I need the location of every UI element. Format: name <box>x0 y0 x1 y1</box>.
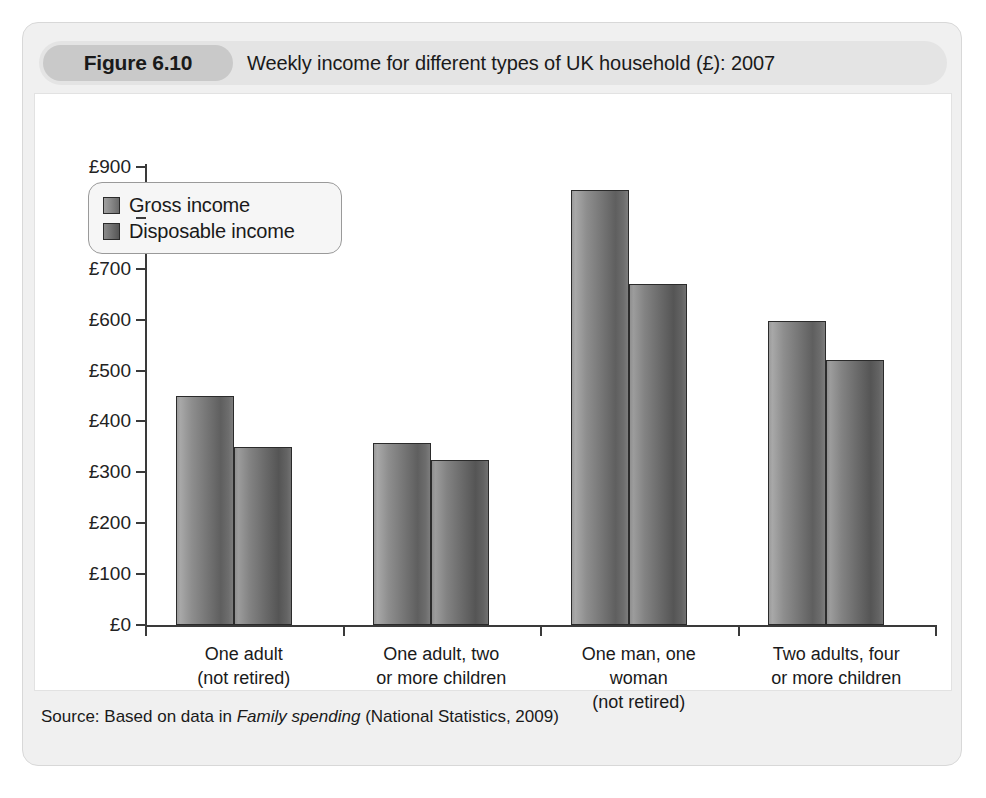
y-axis-tick-label: £300 <box>53 461 131 483</box>
y-axis-tick-label: £600 <box>53 309 131 331</box>
y-axis-tick-label: £700 <box>53 258 131 280</box>
bar-gross-group-4 <box>768 321 826 625</box>
x-axis-category-label: One man, one woman (not retired) <box>540 642 738 714</box>
y-axis-tick-mark <box>136 573 146 575</box>
y-axis-tick-mark <box>136 522 146 524</box>
bar-disposable-group-2 <box>431 460 489 625</box>
bar-disposable-group-1 <box>234 447 292 625</box>
y-axis-tick-mark <box>136 319 146 321</box>
y-axis-tick-label: £100 <box>53 563 131 585</box>
x-axis-tick-mark <box>343 625 345 636</box>
x-axis-category-label: One adult, two or more children <box>343 642 541 690</box>
source-suffix: (National Statistics, 2009) <box>360 707 558 726</box>
chart-legend: Gross income Disposable income <box>88 182 342 254</box>
x-axis-category-label: One adult (not retired) <box>145 642 343 690</box>
x-axis-tick-mark <box>540 625 542 636</box>
figure-card: Figure 6.10 Weekly income for different … <box>22 22 962 766</box>
y-axis-tick-label: £400 <box>53 410 131 432</box>
legend-item-gross-income: Gross income <box>103 192 341 218</box>
y-axis-tick-label: £900 <box>53 156 131 178</box>
bar-disposable-group-4 <box>826 360 884 625</box>
chart-plot-panel: £0£100£200£300£400£500£600£700£800£900 O… <box>34 93 952 691</box>
y-axis-tick-mark <box>136 624 146 626</box>
y-axis-tick-mark <box>136 420 146 422</box>
figure-source: Source: Based on data in Family spending… <box>41 707 559 727</box>
bar-gross-group-1 <box>176 396 234 625</box>
chart-canvas: £0£100£200£300£400£500£600£700£800£900 O… <box>35 94 951 690</box>
legend-label-gross: Gross income <box>129 194 250 217</box>
y-axis-tick-label: £0 <box>53 614 131 636</box>
y-axis-tick-mark <box>136 217 146 219</box>
figure-title: Weekly income for different types of UK … <box>247 45 775 81</box>
bar-disposable-group-3 <box>629 284 687 625</box>
bar-gross-group-2 <box>373 443 431 625</box>
source-title: Family spending <box>237 707 361 726</box>
y-axis-tick-mark <box>136 370 146 372</box>
x-axis-tick-mark <box>145 625 147 636</box>
x-axis-category-label: Two adults, four or more children <box>738 642 936 690</box>
legend-swatch-icon-disposable <box>103 223 120 240</box>
y-axis-tick-mark <box>136 268 146 270</box>
x-axis-tick-mark <box>738 625 740 636</box>
bar-gross-group-3 <box>571 190 629 625</box>
y-axis-tick-mark <box>136 471 146 473</box>
figure-number-badge: Figure 6.10 <box>43 45 233 81</box>
x-axis-tick-mark <box>935 625 937 636</box>
figure-header: Figure 6.10 Weekly income for different … <box>39 41 947 85</box>
legend-swatch-icon-gross <box>103 197 120 214</box>
legend-label-disposable: Disposable income <box>129 220 295 243</box>
y-axis-tick-label: £500 <box>53 360 131 382</box>
legend-item-disposable-income: Disposable income <box>103 218 341 244</box>
y-axis-tick-mark <box>136 166 146 168</box>
source-prefix: Source: Based on data in <box>41 707 237 726</box>
y-axis-tick-label: £200 <box>53 512 131 534</box>
